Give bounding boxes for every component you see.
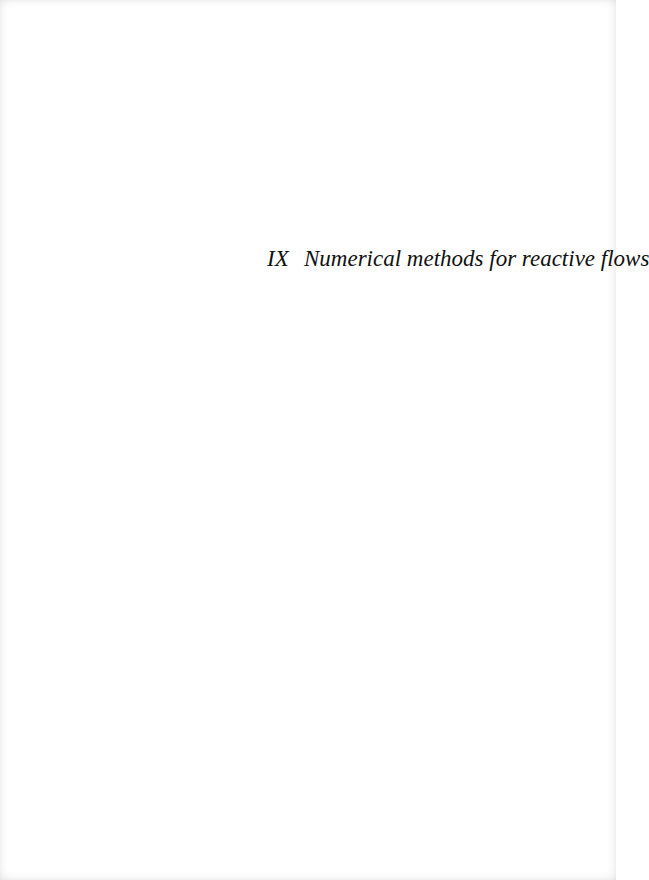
part-title-heading: IXNumerical methods for reactive flows	[267, 245, 649, 273]
part-number: IX	[267, 245, 304, 273]
part-name: Numerical methods for reactive flows	[304, 246, 649, 271]
